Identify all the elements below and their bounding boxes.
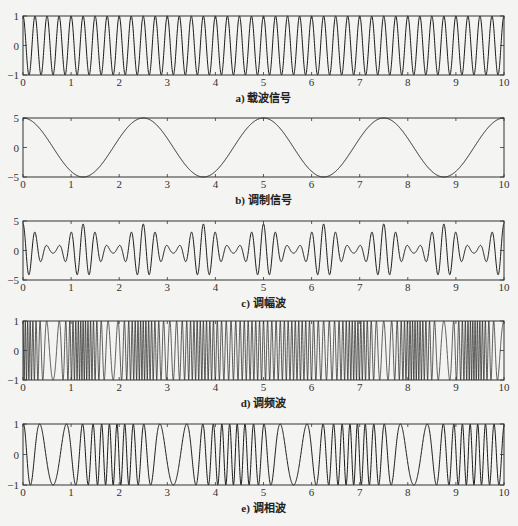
x-tick-label: 5	[261, 381, 267, 393]
signal-line	[23, 321, 504, 380]
x-tick-label: 10	[499, 486, 511, 498]
x-tick-label: 2	[116, 178, 122, 190]
x-tick-label: 3	[165, 486, 171, 498]
panel-modulating-signal: 012345678910−505b) 调制信号	[7, 112, 510, 207]
x-tick-label: 1	[68, 486, 74, 498]
x-tick-label: 4	[213, 76, 219, 88]
x-tick-label: 3	[165, 76, 171, 88]
x-tick-label: 1	[68, 76, 74, 88]
x-tick-label: 5	[261, 178, 267, 190]
x-tick-label: 10	[499, 281, 511, 293]
y-tick-label: 0	[14, 345, 20, 357]
x-tick-label: 10	[499, 381, 511, 393]
y-tick-label: −5	[7, 171, 19, 183]
panel-caption: e) 调相波	[241, 501, 286, 515]
panel-fm-wave: 012345678910−101d) 调频波	[7, 315, 510, 410]
x-tick-label: 9	[453, 178, 459, 190]
x-tick-label: 8	[405, 76, 411, 88]
x-tick-label: 0	[20, 178, 26, 190]
x-tick-label: 0	[20, 486, 26, 498]
x-tick-label: 4	[213, 486, 219, 498]
y-tick-label: −1	[7, 374, 19, 386]
x-tick-label: 6	[309, 381, 315, 393]
y-tick-label: 1	[14, 10, 20, 22]
x-tick-label: 3	[165, 381, 171, 393]
x-tick-label: 7	[357, 178, 363, 190]
panel-am-wave: 012345678910−505c) 调幅波	[7, 215, 510, 310]
y-tick-label: −5	[7, 274, 19, 286]
y-tick-label: −1	[7, 479, 19, 491]
x-tick-label: 8	[405, 281, 411, 293]
axes-box	[23, 221, 504, 280]
x-tick-label: 4	[213, 281, 219, 293]
y-tick-label: 1	[14, 315, 20, 327]
panel-pm-wave: 012345678910−101e) 调相波	[7, 418, 510, 515]
y-tick-label: 1	[14, 418, 20, 430]
x-tick-label: 2	[116, 486, 122, 498]
y-tick-label: 0	[14, 245, 20, 257]
panel-caption: d) 调频波	[241, 396, 288, 410]
x-tick-label: 0	[20, 76, 26, 88]
signal-line	[23, 424, 504, 485]
x-tick-label: 2	[116, 381, 122, 393]
x-tick-label: 7	[357, 486, 363, 498]
x-tick-label: 9	[453, 281, 459, 293]
x-tick-label: 6	[309, 76, 315, 88]
axes-box	[23, 321, 504, 380]
x-tick-label: 2	[116, 281, 122, 293]
x-tick-label: 10	[499, 76, 511, 88]
x-tick-label: 1	[68, 381, 74, 393]
x-tick-label: 8	[405, 381, 411, 393]
y-tick-label: 0	[14, 449, 20, 461]
axes-box	[23, 118, 504, 177]
x-tick-label: 1	[68, 178, 74, 190]
x-tick-label: 5	[261, 281, 267, 293]
x-tick-label: 6	[309, 178, 315, 190]
x-tick-label: 3	[165, 178, 171, 190]
x-tick-label: 7	[357, 381, 363, 393]
x-tick-label: 6	[309, 486, 315, 498]
y-tick-label: 0	[14, 40, 20, 52]
x-tick-label: 0	[20, 381, 26, 393]
x-tick-label: 9	[453, 76, 459, 88]
x-tick-label: 9	[453, 381, 459, 393]
signal-line	[23, 16, 504, 75]
x-tick-label: 1	[68, 281, 74, 293]
signal-line	[23, 224, 504, 275]
x-tick-label: 4	[213, 178, 219, 190]
x-tick-label: 3	[165, 281, 171, 293]
x-tick-label: 9	[453, 486, 459, 498]
x-tick-label: 7	[357, 281, 363, 293]
x-tick-label: 5	[261, 76, 267, 88]
modulation-figure: 012345678910−101a) 载波信号 012345678910−505…	[0, 0, 518, 526]
y-tick-label: 5	[14, 215, 20, 227]
y-tick-label: 5	[14, 112, 20, 124]
x-tick-label: 10	[499, 178, 511, 190]
x-tick-label: 0	[20, 281, 26, 293]
panel-carrier-signal: 012345678910−101a) 载波信号	[7, 10, 510, 105]
x-tick-label: 2	[116, 76, 122, 88]
y-tick-label: 0	[14, 142, 20, 154]
x-tick-label: 5	[261, 486, 267, 498]
x-tick-label: 8	[405, 486, 411, 498]
x-tick-label: 8	[405, 178, 411, 190]
panel-caption: c) 调幅波	[241, 296, 286, 310]
x-tick-label: 7	[357, 76, 363, 88]
y-tick-label: −1	[7, 69, 19, 81]
panel-caption: a) 载波信号	[236, 91, 292, 105]
x-tick-label: 6	[309, 281, 315, 293]
signal-line	[23, 118, 504, 177]
panel-caption: b) 调制信号	[235, 193, 292, 207]
x-tick-label: 4	[213, 381, 219, 393]
axes-box	[23, 16, 504, 75]
